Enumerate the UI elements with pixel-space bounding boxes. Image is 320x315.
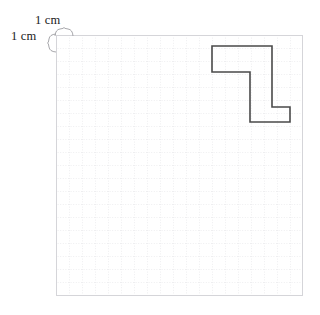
grid-cells xyxy=(56,35,303,296)
top-unit-brace xyxy=(54,27,74,37)
left-unit-label: 1 cm xyxy=(11,29,36,44)
top-unit-label: 1 cm xyxy=(35,13,60,28)
figure-canvas: 1 cm 1 cm xyxy=(0,0,320,315)
centimetre-grid xyxy=(56,35,303,296)
grid-svg xyxy=(56,35,303,296)
left-unit-brace xyxy=(47,33,57,53)
